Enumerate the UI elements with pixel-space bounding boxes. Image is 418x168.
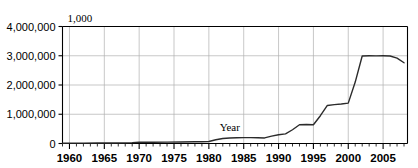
series-annotation-label: Year <box>220 121 241 133</box>
x-axis-tick-label: 1975 <box>161 152 187 164</box>
x-axis-tick-label: 2000 <box>335 152 361 164</box>
y-axis-tick-label: 0 <box>49 138 55 150</box>
x-axis-tick-label: 1995 <box>301 152 327 164</box>
x-axis-tick-label: 2005 <box>370 152 396 164</box>
x-axis-tick-label: 1980 <box>196 152 222 164</box>
y-axis-tick-label: 4,000,000 <box>7 21 56 33</box>
y-axis-tick-label: 1,000,000 <box>7 108 56 120</box>
x-axis-tick-label: 1985 <box>231 152 257 164</box>
chart-container: 01,000,0002,000,0003,000,0004,000,000196… <box>0 0 418 168</box>
x-axis-tick-label: 1990 <box>266 152 292 164</box>
x-axis-tick-label: 1965 <box>92 152 118 164</box>
y-axis-unit-note: 1,000 <box>68 12 93 24</box>
y-axis-tick-label: 2,000,000 <box>7 79 56 91</box>
y-axis-tick-label: 3,000,000 <box>7 50 56 62</box>
x-axis-tick-label: 1960 <box>57 152 83 164</box>
x-axis-tick-label: 1970 <box>126 152 152 164</box>
line-chart: 01,000,0002,000,0003,000,0004,000,000196… <box>0 0 418 168</box>
